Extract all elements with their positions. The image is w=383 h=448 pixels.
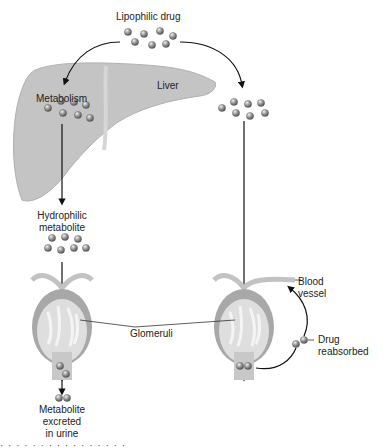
cropped-caption-fragment: · · · · · · · · · · · · · · · · [0, 440, 383, 448]
label-blood-vessel: Blood vessel [298, 276, 326, 300]
excreted-molecules [55, 394, 70, 401]
label-liver: Liver [157, 80, 179, 92]
hydrophilic-metabolite-molecules [44, 233, 89, 253]
reabsorbed-drug-molecules [292, 336, 307, 347]
label-glomeruli: Glomeruli [130, 328, 173, 340]
label-lipophilic-drug: Lipophilic drug [116, 11, 181, 23]
drug-metabolism-diagram: Lipophilic drug Liver Metabolism Hydroph… [0, 0, 383, 448]
circulating-drug-molecules [218, 98, 268, 119]
label-metabolism: Metabolism [36, 93, 87, 105]
label-hydrophilic-metabolite: Hydrophilic metabolite [30, 210, 94, 234]
label-drug-reabsorbed: Drug reabsorbed [318, 334, 369, 358]
label-metabolite-excreted: Metabolite excreted in urine [30, 404, 94, 440]
liver-shape [14, 63, 216, 201]
lipophilic-drug-molecules [124, 27, 176, 48]
